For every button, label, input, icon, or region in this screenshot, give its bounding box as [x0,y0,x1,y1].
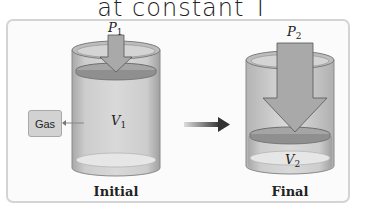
gas-pointer-icon [62,120,66,126]
final-title: Final [272,184,309,199]
initial-title: Initial [94,184,139,199]
pressure-label-final: P2 [286,24,301,41]
process-arrow-icon [184,117,230,132]
boyles-law-diagram: P1 V1 Initial P2 V2 Final [0,0,366,208]
initial-cylinder [72,35,160,176]
gas-label-box: Gas [28,110,62,137]
gas-label: Gas [35,118,55,130]
pressure-label-initial: P1 [107,20,122,37]
